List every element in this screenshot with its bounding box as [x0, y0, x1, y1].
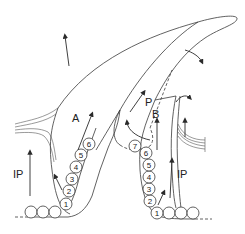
right-crease-fan — [178, 124, 205, 152]
svg-text:3: 3 — [70, 175, 75, 184]
right-cell-4: 4 — [143, 171, 155, 183]
right-cell-column: 1 2 3 4 5 6 7 — [129, 140, 163, 219]
left-cell-3: 3 — [66, 173, 78, 185]
label-left-ip: IP — [13, 168, 23, 180]
left-cell-4: 4 — [70, 161, 82, 173]
right-cell-5: 5 — [143, 159, 155, 171]
right-cell-7: 7 — [129, 140, 141, 152]
left-cell-column: 1 2 3 4 5 6 — [60, 138, 95, 210]
central-lobe — [96, 70, 172, 150]
left-cell-1: 1 — [60, 198, 72, 210]
svg-text:2: 2 — [67, 187, 72, 196]
b-curved-arrow — [176, 96, 190, 102]
left-inner-arrow — [55, 176, 62, 190]
left-cell-2: 2 — [63, 185, 75, 197]
svg-text:1: 1 — [64, 200, 69, 209]
left-crease-fan — [15, 108, 70, 214]
svg-text:5: 5 — [79, 151, 84, 160]
svg-text:7: 7 — [133, 142, 138, 151]
left-cell-5: 5 — [75, 149, 87, 161]
right-cell-2: 2 — [144, 195, 156, 207]
diagram-canvas: 1 2 3 4 5 6 1 2 3 4 5 — [0, 0, 245, 234]
arrow-p — [130, 92, 144, 112]
label-right-ip: IP — [177, 168, 187, 180]
right-ip-arrow — [170, 160, 172, 198]
labels: IP A P B IP — [13, 96, 187, 180]
svg-text:1: 1 — [155, 209, 160, 218]
label-b: B — [152, 108, 159, 120]
right-cell-6: 6 — [140, 147, 152, 159]
right-cell-3: 3 — [143, 183, 155, 195]
right-inner-arrow — [158, 192, 164, 205]
svg-text:2: 2 — [148, 197, 153, 206]
outer-upward-arrow — [65, 36, 69, 66]
svg-text:6: 6 — [87, 140, 92, 149]
right-base-spheres — [163, 207, 199, 219]
svg-text:4: 4 — [147, 173, 152, 182]
label-p: P — [145, 96, 152, 108]
left-base-spheres — [25, 206, 61, 218]
svg-text:5: 5 — [147, 161, 152, 170]
svg-text:6: 6 — [144, 149, 149, 158]
hook-curved-arrow — [185, 50, 202, 62]
svg-text:3: 3 — [147, 185, 152, 194]
lobe-curved-arrow — [127, 122, 150, 140]
left-cell-6: 6 — [83, 138, 95, 150]
right-cell-1: 1 — [151, 207, 163, 219]
svg-text:4: 4 — [74, 163, 79, 172]
label-a: A — [72, 112, 80, 124]
